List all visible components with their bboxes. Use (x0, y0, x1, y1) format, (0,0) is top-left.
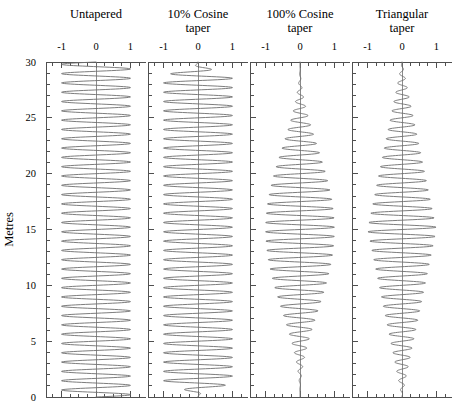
plot-area: Untapered-10110% Cosinetaper-101100% Cos… (2, 7, 452, 403)
xtick-label: -1 (159, 41, 168, 52)
xtick-label: -1 (57, 41, 66, 52)
taper-comparison-figure: Untapered-10110% Cosinetaper-101100% Cos… (0, 0, 464, 417)
xtick-label: 1 (434, 41, 439, 52)
ytick-label: 30 (26, 57, 37, 68)
xtick-label: -1 (363, 41, 372, 52)
xtick-label: -1 (261, 41, 270, 52)
panel-title-line1: Untapered (70, 7, 123, 21)
panel-title-line1: 100% Cosine (266, 7, 333, 21)
ytick-label: 15 (26, 224, 37, 235)
ytick-label: 5 (31, 336, 36, 347)
ytick-label: 20 (26, 168, 37, 179)
ytick-label: 10 (26, 280, 37, 291)
xtick-label: 1 (128, 41, 133, 52)
panel-title-line2: taper (390, 21, 416, 35)
xtick-label: 0 (93, 41, 98, 52)
xtick-label: 0 (399, 41, 404, 52)
panel-title-line1: Triangular (376, 7, 429, 21)
panel-title-line2: taper (186, 21, 212, 35)
xtick-label: 0 (195, 41, 200, 52)
panel-title-line2: taper (288, 21, 314, 35)
y-axis-title: Metres (2, 212, 16, 247)
ytick-label: 25 (26, 112, 37, 123)
xtick-label: 1 (332, 41, 337, 52)
panel-title-line1: 10% Cosine (168, 7, 229, 21)
xtick-label: 0 (297, 41, 302, 52)
panel-4: Triangulartaper-101 (352, 7, 452, 397)
panel-1: Untapered-101 (46, 7, 146, 397)
ytick-label: 0 (31, 392, 36, 403)
panel-2: 10% Cosinetaper-101 (148, 7, 248, 397)
panel-3: 100% Cosinetaper-101 (250, 7, 350, 397)
y-axis: 051015202530Metres (2, 57, 36, 403)
xtick-label: 1 (230, 41, 235, 52)
